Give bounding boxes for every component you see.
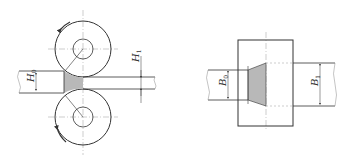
rolling-diagram: H0 H1 B0 B1 bbox=[0, 0, 351, 161]
upper-roll-radius bbox=[65, 49, 83, 71]
b1-label: B1 bbox=[309, 75, 321, 87]
incoming-break-line bbox=[18, 71, 21, 93]
outgoing-break-line bbox=[334, 63, 337, 106]
incoming-break-line bbox=[207, 70, 210, 100]
h1-label: H1 bbox=[130, 49, 142, 63]
lower-roll-radius bbox=[65, 95, 83, 117]
b0-label: B0 bbox=[217, 75, 229, 87]
left-figure-rolls: H0 H1 bbox=[18, 10, 157, 155]
upper-rotation-arrow-icon bbox=[60, 22, 70, 30]
deformation-zone bbox=[64, 71, 83, 93]
contact-zone bbox=[248, 63, 266, 106]
outgoing-break-line bbox=[154, 77, 156, 89]
right-figure-topview: B0 B1 bbox=[207, 32, 337, 130]
